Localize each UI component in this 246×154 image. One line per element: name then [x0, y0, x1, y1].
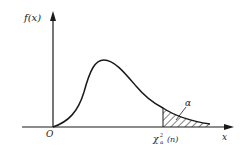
chi-square-figure: f(x) x O α χ 2 α (n)	[0, 0, 246, 154]
critical-value-label: χ 2 α (n)	[152, 132, 178, 145]
critical-value-arg: (n)	[167, 135, 178, 144]
critical-value-sub: α	[160, 139, 164, 145]
x-axis-label: x	[222, 132, 227, 142]
critical-value-base: χ	[152, 134, 159, 144]
y-axis-label: f(x)	[23, 12, 41, 23]
y-axis	[50, 11, 56, 127]
alpha-label: α	[185, 98, 191, 108]
critical-value-sup: 2	[159, 132, 163, 138]
density-curve	[53, 60, 210, 127]
x-axis-arrow-icon	[224, 124, 234, 130]
y-axis-arrow-icon	[50, 11, 56, 21]
origin-label: O	[46, 129, 54, 139]
